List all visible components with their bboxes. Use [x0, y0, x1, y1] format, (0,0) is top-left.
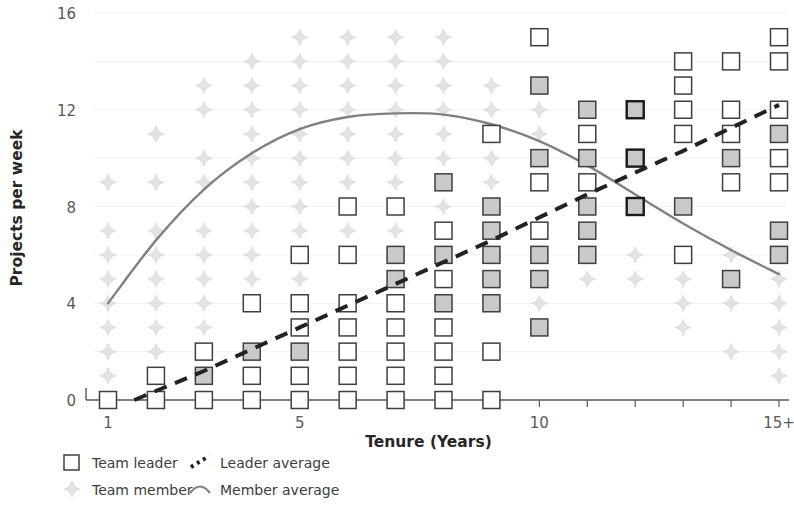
team-leader-marker: [531, 29, 548, 46]
team-leader-marker: [579, 101, 596, 118]
team-leader-marker: [531, 319, 548, 336]
team-member-marker: [436, 53, 452, 69]
team-leader-marker: [435, 174, 452, 191]
team-leader-marker: [291, 295, 308, 312]
legend-item-team-member[interactable]: Team member: [64, 481, 193, 498]
team-leader-marker: [435, 392, 452, 409]
diamond-light-icon: [64, 481, 80, 497]
y-tick-label: 0: [66, 392, 76, 410]
y-tick-label: 4: [66, 295, 76, 313]
team-leader-marker: [771, 174, 788, 191]
team-leader-marker: [675, 246, 692, 263]
team-member-marker: [244, 199, 260, 215]
team-member-marker: [100, 223, 116, 239]
team-leader-marker: [291, 367, 308, 384]
team-member-marker: [148, 174, 164, 190]
team-member-marker: [436, 78, 452, 94]
team-member-marker: [244, 271, 260, 287]
legend-label: Team member: [91, 482, 193, 498]
team-member-marker: [340, 78, 356, 94]
team-leader-marker: [147, 367, 164, 384]
team-member-marker: [627, 247, 643, 263]
team-leader-marker: [339, 246, 356, 263]
chart-legend: Team leaderTeam memberLeader averageMemb…: [64, 455, 339, 498]
team-leader-marker: [387, 246, 404, 263]
team-member-marker: [100, 174, 116, 190]
team-member-marker: [388, 174, 404, 190]
team-member-marker: [388, 78, 404, 94]
team-member-marker: [196, 271, 212, 287]
team-leader-marker: [387, 319, 404, 336]
chart-canvas: 0481216151015+ Tenure (Years)Projects pe…: [0, 0, 794, 515]
team-leader-marker: [771, 29, 788, 46]
team-leader-marker: [723, 271, 740, 288]
team-leader-marker: [291, 392, 308, 409]
team-member-marker: [436, 199, 452, 215]
team-member-marker: [244, 53, 260, 69]
team-member-marker: [292, 174, 308, 190]
team-leader-marker: [483, 295, 500, 312]
team-leader-marker: [339, 367, 356, 384]
team-member-marker: [148, 247, 164, 263]
team-member-marker: [340, 150, 356, 166]
team-member-marker: [148, 223, 164, 239]
team-member-marker: [483, 150, 499, 166]
team-leader-marker: [627, 150, 644, 167]
team-member-marker: [388, 29, 404, 45]
team-member-marker: [148, 126, 164, 142]
team-member-marker: [196, 247, 212, 263]
team-leader-marker: [723, 174, 740, 191]
team-leader-marker: [339, 319, 356, 336]
team-leader-marker: [483, 343, 500, 360]
team-leader-marker: [387, 392, 404, 409]
team-member-marker: [196, 102, 212, 118]
team-member-marker: [771, 344, 787, 360]
team-leader-marker: [531, 222, 548, 239]
x-tick-label: 15+: [763, 414, 794, 432]
team-leader-marker: [291, 343, 308, 360]
team-member-marker: [483, 78, 499, 94]
team-member-marker: [292, 150, 308, 166]
team-member-marker: [340, 174, 356, 190]
team-member-marker: [196, 174, 212, 190]
x-tick-label: 10: [530, 414, 549, 432]
legend-item-member-average[interactable]: Member average: [190, 482, 339, 498]
team-leader-marker: [531, 246, 548, 263]
team-leader-marker: [243, 367, 260, 384]
team-member-marker: [388, 223, 404, 239]
team-leader-marker: [387, 198, 404, 215]
team-leader-marker: [435, 367, 452, 384]
y-tick-label: 16: [57, 5, 76, 23]
team-member-marker: [148, 271, 164, 287]
team-member-marker: [340, 53, 356, 69]
team-member-marker: [292, 102, 308, 118]
team-member-marker: [483, 102, 499, 118]
team-leader-marker: [147, 392, 164, 409]
team-leader-marker: [771, 101, 788, 118]
team-leader-marker: [435, 295, 452, 312]
team-member-marker: [579, 271, 595, 287]
team-leader-marker: [627, 101, 644, 118]
y-axis-title: Projects per week: [8, 129, 26, 287]
team-leader-marker: [291, 246, 308, 263]
team-member-marker: [100, 368, 116, 384]
team-leader-marker: [100, 392, 117, 409]
team-member-marker: [148, 319, 164, 335]
team-leader-marker: [723, 125, 740, 142]
team-member-marker: [196, 223, 212, 239]
team-leader-marker: [387, 343, 404, 360]
team-leader-marker: [339, 198, 356, 215]
team-leader-marker: [435, 222, 452, 239]
team-member-marker: [292, 53, 308, 69]
legend-label: Member average: [220, 482, 339, 498]
team-leader-marker: [531, 271, 548, 288]
square-open-icon: [64, 455, 79, 470]
team-leader-marker: [483, 125, 500, 142]
legend-item-leader-average[interactable]: Leader average: [191, 455, 330, 471]
team-member-marker: [436, 126, 452, 142]
legend-item-team-leader[interactable]: Team leader: [64, 455, 178, 471]
team-leader-marker: [579, 174, 596, 191]
team-leader-marker: [531, 77, 548, 94]
team-leader-marker: [771, 53, 788, 70]
team-member-marker: [531, 295, 547, 311]
